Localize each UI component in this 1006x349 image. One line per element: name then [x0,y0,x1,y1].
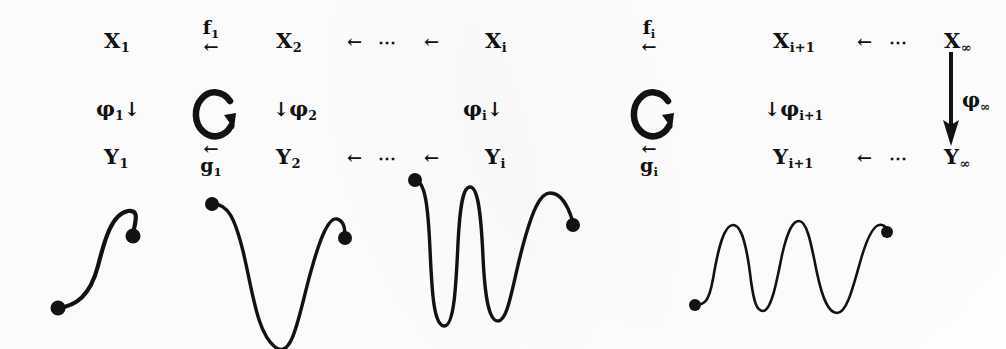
object-x-1: X1 [104,30,130,54]
vertical-map-phi-1-label: φ1 [96,96,124,121]
map-f-1-arrow: ← [184,40,238,54]
vertical-map-phi-1: φ1↓ [96,98,140,122]
object-y-i-plus-1: Yi+1 [773,146,813,170]
object-x-i-plus-1-sub: i+1 [790,40,815,55]
object-y-i-plus-1-base: Y [773,144,789,169]
curve-figure-4 [677,185,902,330]
object-x-2: X2 [276,30,302,54]
top-ellipsis-2: ⋯ [889,33,911,51]
vertical-map-phi-i-plus-1-arrow: ↓ [764,98,780,121]
object-x-i-plus-1-base: X [773,28,790,53]
object-y-2: Y2 [276,146,301,170]
bottom-arrow-a: ← [347,149,362,167]
top-arrow-c: ← [857,33,872,51]
map-f-i: fi ← [622,18,676,55]
vertical-map-phi-2: ↓φ2 [273,98,317,122]
object-x-i-base: X [485,28,502,53]
top-arrow-b: ← [424,33,439,51]
object-x-1-base: X [104,28,121,53]
object-x-2-sub: 2 [293,40,302,55]
vertical-map-phi-i: φi↓ [463,98,503,122]
object-x-i: Xi [485,30,507,54]
top-ellipsis-1: ⋯ [378,33,400,51]
object-y-infinity: Y∞ [944,146,970,170]
object-y-2-sub: 2 [292,156,301,171]
map-g-1: ← g1 [184,142,238,179]
object-y-1-sub: 1 [120,156,129,171]
bottom-ellipsis-2: ⋯ [889,149,911,167]
vertical-map-phi-2-label: φ2 [289,96,317,121]
object-y-i-plus-1-sub: i+1 [789,156,814,171]
vertical-map-phi-infinity-label: φ∞ [962,88,990,114]
top-arrow-a: ← [347,33,362,51]
object-x-1-sub: 1 [121,40,130,55]
bottom-arrow-c: ← [857,149,872,167]
object-x-infinity: X∞ [944,30,972,54]
object-x-i-sub: i [502,40,507,55]
vertical-map-phi-i-plus-1: ↓φi+1 [764,98,823,122]
object-x-i-plus-1: Xi+1 [773,30,815,54]
curve-figure-3 [400,165,595,335]
vertical-map-phi-2-arrow: ↓ [273,98,289,121]
object-x-2-base: X [276,28,293,53]
vertical-map-phi-i-plus-1-label: φi+1 [780,96,823,121]
object-y-infinity-base: Y [944,144,960,169]
map-f-1: f1 ← [184,18,238,55]
vertical-map-phi-1-arrow: ↓ [124,98,140,121]
figure-canvas: X1 f1 ← X2 ← ⋯ ← Xi fi ← Xi+1 ← ⋯ X∞ φ1↓… [0,0,1006,349]
object-y-2-base: Y [276,144,292,169]
object-y-1-base: Y [104,144,120,169]
bottom-ellipsis-1: ⋯ [378,149,400,167]
vertical-map-phi-i-arrow: ↓ [487,98,503,121]
object-x-infinity-base: X [944,28,961,53]
curve-figure-1 [30,180,190,330]
map-f-i-arrow: ← [622,40,676,54]
object-y-1: Y1 [104,146,129,170]
map-g-i-label: gi [622,156,676,178]
vertical-map-phi-i-label: φi [463,96,487,121]
curve-figure-2 [195,185,370,335]
object-y-infinity-sub: ∞ [960,156,971,171]
map-g-i: ← gi [622,142,676,179]
map-g-1-label: g1 [184,156,238,178]
